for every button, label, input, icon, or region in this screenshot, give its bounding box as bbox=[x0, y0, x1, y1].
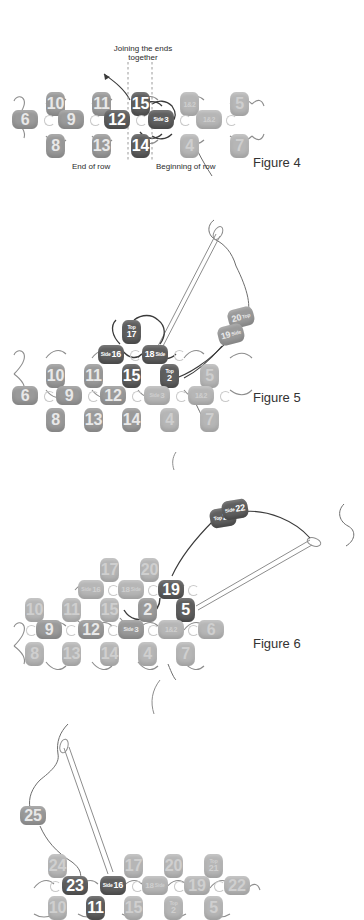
bead-23[interactable]: 23 bbox=[62, 876, 88, 895]
thread-loop-icon bbox=[26, 625, 37, 636]
beginning-of-row-label: Beginning of row bbox=[156, 162, 216, 171]
thread-loop-icon bbox=[132, 881, 143, 892]
bead-10[interactable]: 10 bbox=[25, 598, 44, 622]
bead-25[interactable]: 25 bbox=[20, 806, 46, 825]
figure-6: Top21 Side22 17 20 Side16 18Side 19 10 1… bbox=[0, 450, 364, 680]
figure-4: 10 11 15 1&2 5 6 9 12 Side3 1&2 8 13 14 … bbox=[0, 0, 364, 200]
end-of-row-label: End of row bbox=[72, 162, 110, 171]
figure-7-stage: 25 24 23 Side16 17 20 Top21 18Side 19 22… bbox=[0, 680, 364, 919]
bead-17[interactable]: 17 bbox=[100, 558, 119, 582]
bead-1and2[interactable]: 1&2 bbox=[158, 620, 184, 639]
bead-5[interactable]: 5 bbox=[200, 364, 219, 388]
figure-4-caption: Figure 4 bbox=[253, 155, 301, 170]
thread-loop-icon bbox=[214, 881, 225, 892]
bead-11[interactable]: 11 bbox=[62, 598, 81, 622]
bead-18-side[interactable]: 18Side bbox=[142, 345, 168, 364]
thread-loop-icon bbox=[132, 391, 143, 402]
bead-13[interactable]: 13 bbox=[62, 642, 81, 666]
thread-loop-icon bbox=[220, 391, 231, 402]
figure-5-stage: 20Top 19Side Top17 Side16 18Side 15 Top2… bbox=[0, 200, 364, 450]
bead-12[interactable]: 12 bbox=[104, 110, 130, 129]
bead-18-side[interactable]: 18Side bbox=[142, 876, 168, 895]
bead-4[interactable]: 4 bbox=[180, 134, 199, 158]
bead-side-3[interactable]: Side3 bbox=[118, 620, 144, 639]
bead-4[interactable]: 4 bbox=[160, 408, 179, 432]
bead-20[interactable]: 20 bbox=[140, 558, 159, 582]
bead-top-21[interactable]: Top21 bbox=[204, 854, 223, 878]
bead-22[interactable]: 22 bbox=[224, 876, 250, 895]
bead-14[interactable]: 14 bbox=[122, 408, 141, 432]
bead-15[interactable]: 15 bbox=[122, 364, 141, 388]
bead-6[interactable]: 6 bbox=[12, 386, 38, 405]
thread-loop-icon bbox=[130, 350, 141, 361]
bead-9[interactable]: 9 bbox=[36, 620, 62, 639]
bead-8[interactable]: 8 bbox=[46, 134, 65, 158]
bead-7[interactable]: 7 bbox=[230, 134, 249, 158]
bead-2[interactable]: 2 bbox=[138, 598, 157, 622]
figure-4-stage: 10 11 15 1&2 5 6 9 12 Side3 1&2 8 13 14 … bbox=[0, 0, 364, 200]
bead-12[interactable]: 12 bbox=[100, 386, 126, 405]
bead-15[interactable]: 15 bbox=[131, 92, 150, 116]
thread-loop-icon bbox=[226, 115, 237, 126]
thread-loop-icon bbox=[44, 391, 55, 402]
figure-5: 20Top 19Side Top17 Side16 18Side 15 Top2… bbox=[0, 200, 364, 450]
thread-loop-icon bbox=[88, 391, 99, 402]
bead-10[interactable]: 10 bbox=[46, 364, 65, 388]
bead-15[interactable]: 15 bbox=[100, 598, 119, 622]
bead-5[interactable]: 5 bbox=[230, 92, 249, 116]
bead-top-2[interactable]: Top2 bbox=[164, 896, 183, 920]
bead-side-16[interactable]: Side16 bbox=[98, 345, 124, 364]
thread-loop-icon bbox=[176, 391, 187, 402]
thread-loop-icon bbox=[66, 625, 77, 636]
bead-19[interactable]: 19 bbox=[184, 876, 210, 895]
bead-14[interactable]: 14 bbox=[131, 134, 150, 158]
bead-side-16[interactable]: Side16 bbox=[78, 580, 104, 599]
bead-18-side[interactable]: 18Side bbox=[118, 580, 144, 599]
bead-12[interactable]: 12 bbox=[78, 620, 104, 639]
bead-7[interactable]: 7 bbox=[200, 408, 219, 432]
bead-9[interactable]: 9 bbox=[58, 110, 84, 129]
bead-top-2[interactable]: Top2 bbox=[160, 364, 179, 388]
bead-13[interactable]: 13 bbox=[84, 408, 103, 432]
figure-6-caption: Figure 6 bbox=[253, 636, 301, 651]
bead-8[interactable]: 8 bbox=[25, 642, 44, 666]
bead-1and2-mid[interactable]: 1&2 bbox=[196, 110, 222, 129]
thread-loop-icon bbox=[108, 625, 119, 636]
figure-5-caption: Figure 5 bbox=[253, 390, 301, 405]
bead-side-3[interactable]: Side3 bbox=[148, 110, 174, 129]
bead-15[interactable]: 15 bbox=[124, 896, 143, 920]
bead-top-17[interactable]: Top17 bbox=[122, 320, 141, 344]
bead-5[interactable]: 5 bbox=[176, 598, 195, 622]
bead-11[interactable]: 11 bbox=[86, 896, 105, 920]
thread-loop-icon bbox=[44, 115, 55, 126]
bead-11[interactable]: 11 bbox=[84, 364, 103, 388]
thread-loop-icon bbox=[174, 881, 185, 892]
bead-24[interactable]: 24 bbox=[48, 854, 67, 878]
bead-side-16[interactable]: Side16 bbox=[100, 876, 126, 895]
thread-loop-icon bbox=[148, 585, 159, 596]
bead-4[interactable]: 4 bbox=[138, 642, 157, 666]
bead-17[interactable]: 17 bbox=[124, 854, 143, 878]
bead-7[interactable]: 7 bbox=[176, 642, 195, 666]
bead-6[interactable]: 6 bbox=[198, 620, 224, 639]
bead-side-3[interactable]: Side3 bbox=[144, 386, 170, 405]
thread-loop-icon bbox=[188, 625, 199, 636]
bead-14[interactable]: 14 bbox=[100, 642, 119, 666]
bead-5[interactable]: 5 bbox=[204, 896, 223, 920]
bead-19[interactable]: 19 bbox=[158, 580, 184, 599]
bead-10[interactable]: 10 bbox=[48, 896, 67, 920]
bead-20[interactable]: 20 bbox=[164, 854, 183, 878]
figure-7: 25 24 23 Side16 17 20 Top21 18Side 19 22… bbox=[0, 680, 364, 919]
bead-9[interactable]: 9 bbox=[56, 386, 82, 405]
thread-loop-icon bbox=[90, 115, 101, 126]
bead-13[interactable]: 13 bbox=[92, 134, 111, 158]
thread-loop-icon bbox=[148, 625, 159, 636]
thread-loop-icon bbox=[136, 115, 147, 126]
bead-1and2[interactable]: 1&2 bbox=[188, 386, 214, 405]
thread-loop-icon bbox=[188, 585, 199, 596]
joining-note: Joining the ends together bbox=[98, 44, 188, 62]
thread-loop-icon bbox=[174, 350, 185, 361]
bead-6[interactable]: 6 bbox=[12, 110, 38, 129]
figure-6-stage: Top21 Side22 17 20 Side16 18Side 19 10 1… bbox=[0, 450, 364, 680]
bead-8[interactable]: 8 bbox=[46, 408, 65, 432]
